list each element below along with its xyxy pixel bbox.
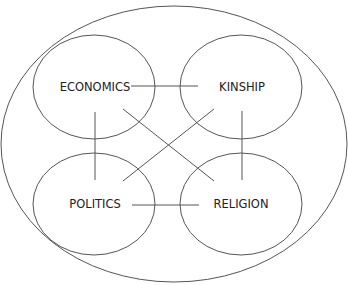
label-kinship: KINSHIP xyxy=(219,80,265,94)
label-politics: POLITICS xyxy=(69,197,121,211)
label-economics: ECONOMICS xyxy=(60,80,131,94)
outer-ellipse xyxy=(1,6,347,282)
diagram-canvas: ECONOMICS KINSHIP POLITICS RELIGION xyxy=(0,0,348,285)
label-religion: RELIGION xyxy=(213,197,268,211)
